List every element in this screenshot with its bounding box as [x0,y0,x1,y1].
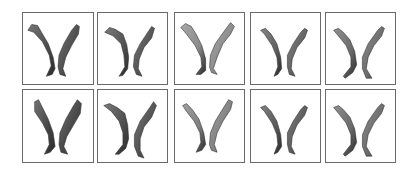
specimen-panel-r1c2 [97,12,168,85]
specimen-panel-r1c1 [22,12,94,85]
specimen-panel-r2c2 [97,89,168,163]
specimen-panel-r2c1 [22,89,94,163]
specimen-image [251,90,320,162]
specimen-panel-r1c5 [325,12,396,85]
specimen-image [23,13,93,84]
specimen-image [251,13,320,84]
specimen-image [23,90,93,162]
specimen-image [175,13,244,84]
specimen-image [326,90,395,162]
specimen-image [326,13,395,84]
specimen-image [98,13,167,84]
specimen-panel-r1c3 [174,12,245,85]
specimen-image [175,90,244,162]
specimen-panel-r2c3 [174,89,245,163]
specimen-panel-r2c4 [250,89,321,163]
specimen-image [98,90,167,162]
specimen-panel-r2c5 [325,89,396,163]
specimen-panel-r1c4 [250,12,321,85]
